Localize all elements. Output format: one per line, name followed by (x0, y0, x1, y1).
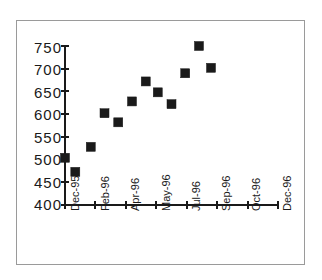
x-axis-tick-label-sep-96: Sep-96 (221, 176, 232, 211)
y-axis-tick-label-700: 700 (18, 62, 62, 77)
chart-figure: 750 700 650 600 550 500 450 400 Dec-95 F… (0, 0, 322, 280)
x-axis-tick-label-dec-96: Dec-96 (282, 176, 293, 211)
x-axis-tick-label-oct-96: Oct-96 (251, 178, 262, 211)
x-axis-tick-label-jul-96: Jul-96 (191, 181, 202, 211)
y-axis-tick-label-750: 750 (18, 40, 62, 55)
y-axis-tick-label-400: 400 (18, 197, 62, 212)
y-axis-tick-label-600: 600 (18, 107, 62, 122)
y-axis-tick-label-550: 550 (18, 130, 62, 145)
x-axis-tick-label-apr-96: Apr-96 (130, 178, 141, 211)
y-axis-tick-label-650: 650 (18, 85, 62, 100)
y-axis-tick-label-450: 450 (18, 175, 62, 190)
y-axis-tick-label-500: 500 (18, 152, 62, 167)
x-axis-tick-label-may-96: May-96 (161, 174, 172, 211)
x-axis-tick-label-feb-96: Feb-96 (100, 176, 111, 211)
x-axis-tick-label-dec-95: Dec-95 (70, 176, 81, 211)
